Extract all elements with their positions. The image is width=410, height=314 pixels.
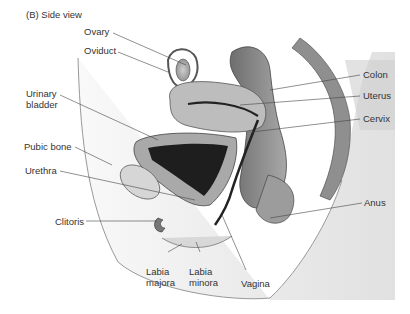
label-labia-minora: Labia minora: [189, 266, 218, 288]
label-uterus: Uterus: [363, 90, 391, 101]
label-clitoris: Clitoris: [55, 216, 84, 227]
label-anus: Anus: [364, 197, 386, 208]
label-labia-majora-line1: Labia: [146, 266, 175, 277]
label-colon: Colon: [363, 69, 388, 80]
label-labia-minora-line1: Labia: [189, 266, 218, 277]
label-vagina: Vagina: [241, 278, 270, 289]
label-labia-minora-line2: minora: [189, 277, 218, 288]
label-pubic-bone: Pubic bone: [24, 141, 72, 152]
label-cervix: Cervix: [363, 113, 390, 124]
label-ovary: Ovary: [84, 26, 109, 37]
label-urinary-bladder-line1: Urinary: [26, 88, 58, 99]
label-urinary-bladder: Urinary bladder: [26, 88, 58, 110]
label-urethra: Urethra: [25, 165, 57, 176]
label-oviduct: Oviduct: [84, 45, 116, 56]
ovary-shape: [176, 59, 190, 81]
sacrum: [292, 38, 350, 200]
label-labia-majora-line2: majora: [146, 277, 175, 288]
label-labia-majora: Labia majora: [146, 266, 175, 288]
label-urinary-bladder-line2: bladder: [26, 99, 58, 110]
